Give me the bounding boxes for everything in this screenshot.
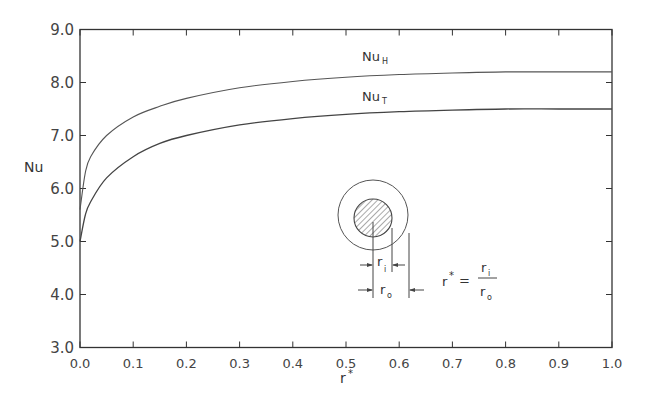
y-tick-label: 4.0 bbox=[50, 286, 74, 304]
svg-text:Nu: Nu bbox=[362, 89, 380, 104]
x-tick-label: 0.6 bbox=[389, 356, 410, 371]
label-nu-t: Nu T bbox=[362, 89, 387, 106]
y-axis-label: Nu bbox=[24, 159, 43, 175]
svg-text:r: r bbox=[340, 370, 346, 386]
curve-nu-h bbox=[80, 72, 612, 210]
x-tick-label: 0.0 bbox=[70, 356, 91, 371]
x-tick-label: 0.3 bbox=[229, 356, 250, 371]
ro-label: r o bbox=[380, 282, 392, 300]
svg-text:H: H bbox=[382, 57, 388, 66]
svg-text:*: * bbox=[449, 270, 454, 281]
nusselt-chart: 0.00.10.20.30.40.50.60.70.80.91.0 3.04.0… bbox=[0, 0, 646, 401]
label-nu-h: Nu H bbox=[362, 49, 388, 66]
x-tick-label: 0.4 bbox=[282, 356, 303, 371]
svg-text:r: r bbox=[480, 284, 486, 299]
ri-label: r i bbox=[377, 254, 386, 274]
x-tick-label: 0.9 bbox=[548, 356, 569, 371]
x-tick-label: 0.7 bbox=[442, 356, 463, 371]
curve-nu-t bbox=[80, 109, 612, 242]
x-tick-label: 1.0 bbox=[602, 356, 623, 371]
svg-text:r: r bbox=[442, 274, 448, 289]
y-tick-label: 7.0 bbox=[50, 127, 74, 145]
svg-text:r: r bbox=[380, 282, 386, 297]
svg-text:r: r bbox=[481, 260, 487, 275]
x-tick-label: 0.5 bbox=[336, 356, 357, 371]
svg-text:i: i bbox=[488, 269, 490, 278]
svg-text:r: r bbox=[377, 254, 383, 269]
svg-text:i: i bbox=[384, 265, 386, 274]
x-tick-label: 0.1 bbox=[123, 356, 144, 371]
svg-text:Nu: Nu bbox=[362, 49, 380, 64]
x-tick-label: 0.2 bbox=[176, 356, 197, 371]
y-tick-label: 8.0 bbox=[50, 74, 74, 92]
svg-text:o: o bbox=[387, 291, 392, 300]
y-axis-ticks: 3.04.05.06.07.08.09.0 bbox=[50, 21, 612, 357]
y-tick-label: 9.0 bbox=[50, 21, 74, 39]
svg-text:=: = bbox=[459, 273, 470, 288]
x-tick-label: 0.8 bbox=[495, 356, 516, 371]
r-star-definition: r * = r i r o bbox=[442, 260, 497, 302]
annulus-inset: r i r o bbox=[338, 180, 424, 300]
y-tick-label: 5.0 bbox=[50, 233, 74, 251]
x-axis-ticks: 0.00.10.20.30.40.50.60.70.80.91.0 bbox=[70, 30, 623, 372]
svg-text:T: T bbox=[381, 97, 387, 106]
svg-text:*: * bbox=[348, 368, 353, 379]
y-tick-label: 3.0 bbox=[50, 339, 74, 357]
svg-text:o: o bbox=[487, 293, 492, 302]
y-tick-label: 6.0 bbox=[50, 180, 74, 198]
